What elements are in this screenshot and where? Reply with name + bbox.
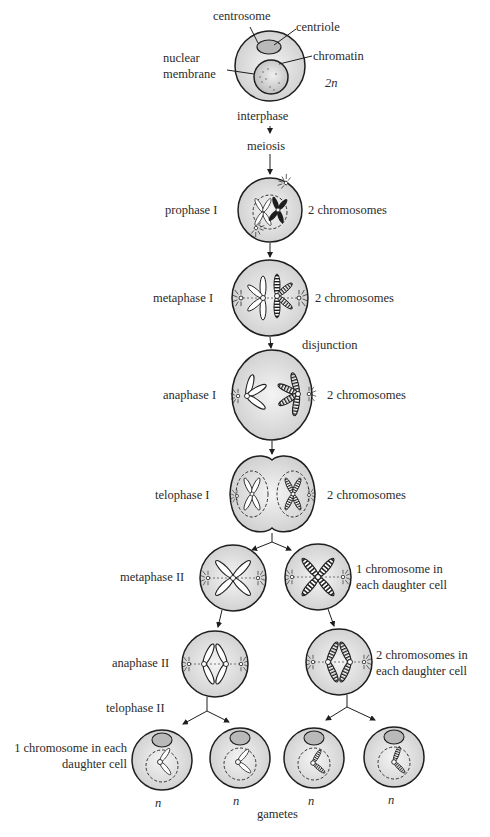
label-prophase-i: prophase I [165, 203, 217, 218]
note-anaphase-ii-2: each daughter cell [376, 664, 467, 679]
metaphase-i-cell [232, 260, 308, 336]
anaphase-ii-cell-left [182, 631, 248, 697]
label-gamete-3-ploidy: n [308, 794, 314, 809]
label-centrosome: centrosome [213, 9, 271, 24]
label-2n: 2n [325, 76, 338, 91]
note-metaphase-ii-2: each daughter cell [356, 578, 447, 593]
label-telophase-ii: telophase II [106, 701, 165, 716]
label-metaphase-i: metaphase I [153, 291, 213, 306]
label-metaphase-ii: metaphase II [120, 570, 184, 585]
label-gametes: gametes [257, 807, 298, 822]
nucleus [254, 60, 288, 94]
label-gamete-2-ploidy: n [233, 794, 239, 809]
note-metaphase-ii-1: 1 chromosome in [356, 562, 443, 577]
note-anaphase-i: 2 chromosomes [327, 388, 406, 403]
interphase-cell [227, 27, 312, 101]
telophase-i-cell [230, 456, 315, 532]
gamete-cell-1 [132, 730, 192, 790]
label-gamete-1-ploidy: n [155, 796, 161, 811]
metaphase-ii-cell-left [200, 545, 266, 611]
label-gamete-4-ploidy: n [388, 793, 394, 808]
note-telophase-i: 2 chromosomes [327, 488, 406, 503]
label-nuclear-membrane-1: nuclear [163, 51, 200, 66]
label-centriole: centriole [296, 20, 340, 35]
gamete-cell-2 [210, 728, 270, 788]
note-metaphase-i: 2 chromosomes [315, 291, 394, 306]
label-disjunction: disjunction [302, 338, 358, 353]
label-anaphase-ii: anaphase II [112, 656, 169, 671]
note-telophase-ii-1: 1 chromosome in each [14, 741, 127, 756]
label-nuclear-membrane-2: membrane [163, 67, 216, 82]
label-interphase: interphase [237, 109, 288, 124]
prophase-i-cell [238, 173, 302, 242]
metaphase-ii-cell-right [285, 544, 351, 610]
note-telophase-ii-2: daughter cell [62, 757, 127, 772]
anaphase-ii-cell-right [306, 629, 372, 695]
anaphase-i-cell [231, 350, 316, 440]
label-anaphase-i: anaphase I [163, 388, 216, 403]
note-prophase-i: 2 chromosomes [308, 203, 387, 218]
label-telophase-i: telophase I [155, 488, 210, 503]
label-meiosis: meiosis [247, 139, 285, 154]
gamete-cell-4 [364, 727, 424, 787]
label-chromatin: chromatin [313, 49, 364, 64]
note-anaphase-ii-1: 2 chromosomes in [376, 648, 468, 663]
meiosis-diagram [0, 0, 490, 837]
gamete-cell-3 [284, 728, 344, 788]
